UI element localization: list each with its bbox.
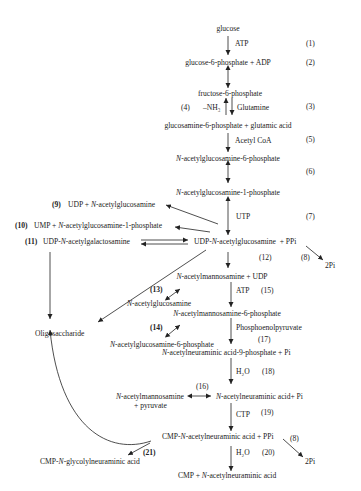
cofactor-h2o-1: H₂O [236, 368, 250, 376]
node-glcnac: N-acetylglucosamine [127, 300, 191, 308]
node-glcnac-1-phosphate: N-acetylglucosamine-1-phosphate [176, 189, 280, 197]
cofactor-ctp: CTP [236, 411, 250, 419]
step-label-2: (2) [306, 59, 315, 67]
cofactor-h2o-2: H₂O [236, 449, 250, 457]
cofactor-utp: UTP [236, 213, 250, 221]
step-label-19: (19) [261, 409, 274, 417]
node-fructose-6-phosphate: fructose-6-phosphate [198, 90, 262, 98]
node-mannac-6-phosphate: N-acetylmannosamine-6-phosphate [173, 310, 281, 318]
step-label-11: (11) [25, 238, 37, 246]
cofactor-glutamine: Glutamine [237, 104, 269, 112]
step-label-15: (15) [261, 287, 274, 295]
node-neuac: N-acetylneuraminic acid+ Pi [216, 393, 303, 401]
node-2pi-second: 2Pi [305, 458, 315, 466]
step-label-8-first: (8) [301, 254, 310, 262]
cofactor-phosphoenolpyruvate: Phosphoenolpyruvate [236, 324, 302, 332]
node-glucose-6-phosphate: glucose-6-phosphate + ADP [185, 59, 271, 67]
step-label-16: (16) [196, 383, 209, 391]
step-label-18: (18) [262, 368, 275, 376]
arrow-step-9 [166, 205, 218, 224]
cofactor-atp-2: ATP [236, 287, 250, 295]
cofactor-acetyl-coa: Acetyl CoA [235, 137, 272, 145]
node-glucosamine-6-phosphate: glucosamine-6-phosphate + glutamic acid [164, 122, 291, 130]
cofactor-atp-1: ATP [235, 40, 249, 48]
arrow-step-14 [168, 325, 180, 335]
node-glucose: glucose [216, 25, 239, 33]
step-label-10: (10) [15, 222, 28, 230]
step-label-8-second: (8) [290, 435, 299, 443]
step-label-3: (3) [306, 103, 315, 111]
step-label-20: (20) [262, 449, 275, 457]
node-ump-glcnac-1-phosphate: UMP + N-acetylglucosamine-1-phosphate [34, 222, 162, 230]
node-cmp-free-neuac: CMP + N-acetylneuraminic acid [178, 472, 276, 480]
step-label-1: (1) [306, 40, 315, 48]
node-2pi-first: 2Pi [325, 262, 335, 270]
node-glcnac-6-phosphate: N-acetylglucosamine-6-phosphate [176, 155, 280, 163]
step-label-7: (7) [306, 213, 315, 221]
step-label-13: (13) [150, 286, 163, 294]
node-mannac-pyruvate: N-acetylmannosamine [116, 393, 184, 401]
node-mannac-udp: N-acetylmannosamine + UDP [176, 273, 267, 281]
step-label-21: (21) [143, 449, 156, 457]
node-pyruvate: + pyruvate [134, 402, 167, 410]
node-udp-glcnac-side: UDP + N-acetylglucosamine [68, 201, 155, 209]
node-neuac-9-phosphate: N-acetylneuraminic acid-9-phosphate + Pi [162, 349, 291, 357]
arrow-step-10 [175, 227, 210, 232]
step-label-14: (14) [150, 324, 163, 332]
node-udp-galnac: UDP-N-acetylgalactosamine [43, 238, 130, 246]
step-label-17: (17) [258, 336, 271, 344]
step-label-12: (12) [259, 254, 272, 262]
step-label-6: (6) [306, 168, 315, 176]
node-oligosaccharide: Oligosaccharide [35, 330, 84, 338]
arrow-step-13 [168, 289, 180, 298]
cofactor-nh3: –NH₃ [203, 104, 220, 112]
step-label-9: (9) [52, 201, 61, 209]
node-udp-glcnac: UDP-N-acetylglucosamine + PPi [194, 238, 296, 246]
step-label-4: (4) [181, 104, 190, 112]
step-label-5: (5) [306, 136, 315, 144]
node-cmp-neuac: CMP-N-acetylneuraminic acid + PPi [162, 433, 274, 441]
node-cmp-neugc: CMP-N-glycolylneuraminic acid [40, 458, 140, 466]
